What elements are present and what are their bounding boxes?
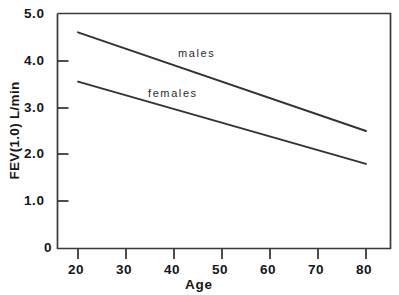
y-tick-label-3: 3.0 [24, 100, 45, 115]
plot-frame [58, 14, 391, 249]
x-tick-label-80: 80 [356, 262, 372, 277]
y-tick-label-2: 2.0 [24, 146, 45, 161]
chart-figure: 5.0 4.0 3.0 2.0 1.0 0 20 30 40 50 60 70 … [0, 0, 399, 295]
data-series-group [78, 32, 366, 164]
series-annotation-males: males [178, 47, 215, 59]
y-tick-label-5: 5.0 [24, 6, 45, 21]
y-tick-label-4: 4.0 [24, 53, 45, 68]
series-line-males [78, 32, 366, 131]
y-axis-title: FEV(1.0) L/min [7, 81, 22, 181]
x-tick-label-20: 20 [68, 262, 84, 277]
series-annotation-females: females [148, 87, 198, 99]
axes-box [58, 14, 391, 249]
x-tick-label-70: 70 [308, 262, 324, 277]
y-axis-ticks [58, 61, 69, 201]
x-axis-title: Age [185, 277, 213, 292]
x-axis-ticks [78, 249, 366, 260]
x-tick-label-50: 50 [212, 262, 228, 277]
x-tick-label-60: 60 [260, 262, 276, 277]
chart-canvas [0, 0, 399, 295]
y-tick-label-0: 0 [44, 240, 52, 255]
x-tick-label-40: 40 [164, 262, 180, 277]
y-tick-label-1: 1.0 [24, 193, 45, 208]
series-line-females [78, 82, 366, 164]
x-tick-label-30: 30 [116, 262, 132, 277]
